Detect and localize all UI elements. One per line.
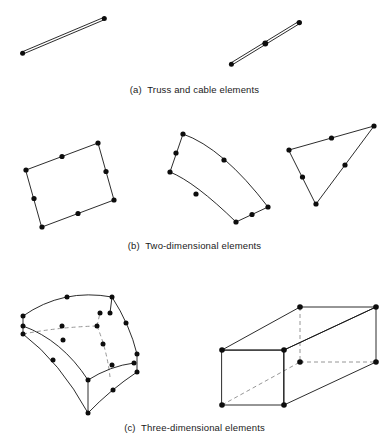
curved-quad-midside-node: [173, 150, 178, 155]
cable-node: [229, 62, 234, 67]
two-node-truss-element: [20, 16, 107, 56]
six-node-triangular-element: [286, 123, 376, 206]
triangle-corner-node: [286, 147, 291, 152]
hex-node: [21, 324, 26, 329]
box-node: [297, 304, 303, 310]
box-node: [373, 304, 379, 310]
box-node: [281, 347, 287, 353]
quad-midside-node: [59, 154, 64, 159]
triangle-midside-node: [329, 135, 334, 140]
panel-three-dimensional: (c) Three-dimensional elements: [0, 270, 389, 444]
panel-two-dimensional: (b) Two-dimensional elements: [0, 110, 389, 270]
caption-two-dimensional: (b) Two-dimensional elements: [0, 240, 389, 251]
box-node: [297, 359, 303, 365]
hex-node: [51, 358, 56, 363]
hex-node: [111, 388, 116, 393]
caption-three-dimensional: (c) Three-dimensional elements: [0, 422, 389, 433]
hex-node: [65, 295, 70, 300]
box-node: [219, 402, 225, 408]
eight-node-quadrilateral-element: [23, 140, 116, 229]
hex-node: [110, 295, 115, 300]
hex-node: [98, 311, 103, 316]
caption-truss-and-cable: (a) Truss and cable elements: [0, 84, 389, 95]
hex-node: [95, 324, 100, 329]
triangle-corner-node: [313, 201, 318, 206]
two-dimensional-drawing: [0, 110, 389, 238]
hex-node: [101, 342, 106, 347]
quad-midside-node: [103, 169, 108, 174]
finite-element-figure: (a) Truss and cable elements: [0, 0, 389, 444]
quad-corner-node: [111, 197, 116, 202]
quad-midside-node: [75, 211, 80, 216]
curved-quad-corner-node: [233, 219, 238, 224]
curved-quad-midside-node: [193, 191, 198, 196]
curved-twenty-node-hexahedral-element: [21, 295, 140, 416]
truss-node: [20, 51, 25, 56]
curved-quad-midside-node: [221, 157, 226, 162]
box-node: [281, 402, 287, 408]
panel-truss-and-cable: (a) Truss and cable elements: [0, 0, 389, 110]
hex-node: [86, 378, 91, 383]
triangle-midside-node: [300, 174, 305, 179]
curved-eight-node-quadrilateral-element: [167, 131, 270, 224]
curved-quad-corner-node: [265, 204, 270, 209]
three-dimensional-drawing: [0, 270, 389, 418]
curved-quad-corner-node: [180, 131, 185, 136]
cable-node: [297, 20, 302, 25]
hex-node: [135, 370, 140, 375]
hex-node: [21, 314, 26, 319]
truss-and-cable-drawing: [0, 0, 389, 78]
hex-node: [108, 311, 113, 316]
three-node-cable-element: [229, 20, 302, 67]
quad-corner-node: [23, 167, 28, 172]
triangle-midside-node: [342, 162, 347, 167]
quad-corner-node: [95, 140, 100, 145]
quad-corner-node: [39, 224, 44, 229]
cable-node-mid: [262, 41, 268, 47]
hex-node: [60, 324, 65, 329]
truss-node: [102, 16, 107, 21]
box-node: [219, 347, 225, 353]
hex-node: [21, 332, 26, 337]
hex-node: [124, 321, 129, 326]
curved-quad-midside-node: [249, 212, 254, 217]
box-node: [373, 359, 379, 365]
curved-quad-corner-node: [167, 169, 172, 174]
hex-node: [61, 338, 66, 343]
quad-midside-node: [31, 196, 36, 201]
hex-node: [132, 361, 137, 366]
hex-node: [110, 363, 115, 368]
hex-node: [135, 352, 140, 357]
triangle-corner-node: [371, 123, 376, 128]
eight-node-rectangular-solid-element: [219, 304, 379, 408]
hex-node: [86, 411, 91, 416]
